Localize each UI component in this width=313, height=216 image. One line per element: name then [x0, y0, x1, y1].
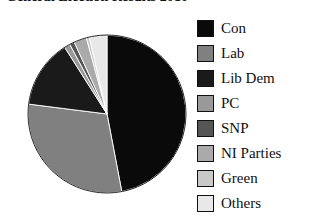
legend-item-lib-dem[interactable]: Lib Dem	[197, 66, 309, 91]
legend-item-snp[interactable]: SNP	[197, 116, 309, 141]
chart-page: General Election Results 2010 ConLabLib …	[0, 0, 313, 216]
legend-item-green[interactable]: Green	[197, 166, 309, 191]
legend-item-label: Green	[221, 170, 258, 187]
legend-item-lab[interactable]: Lab	[197, 41, 309, 66]
legend-swatch-icon	[197, 20, 214, 37]
legend-item-label: Lab	[221, 45, 244, 62]
legend-item-ni-parties[interactable]: NI Parties	[197, 141, 309, 166]
legend-item-label: Others	[221, 195, 261, 212]
page-title: General Election Results 2010	[6, 0, 236, 5]
chart-legend: ConLabLib DemPCSNPNI PartiesGreenOthers	[197, 16, 309, 216]
pie-chart-svg	[27, 34, 187, 194]
legend-swatch-icon	[197, 195, 214, 212]
pie-slice[interactable]	[107, 35, 186, 192]
legend-item-label: Lib Dem	[221, 70, 275, 87]
legend-item-pc[interactable]: PC	[197, 91, 309, 116]
legend-item-label: NI Parties	[221, 145, 281, 162]
legend-item-label: Con	[221, 20, 246, 37]
legend-swatch-icon	[197, 70, 214, 87]
legend-item-others[interactable]: Others	[197, 191, 309, 216]
legend-swatch-icon	[197, 145, 214, 162]
legend-swatch-icon	[197, 170, 214, 187]
legend-item-label: PC	[221, 95, 239, 112]
legend-item-label: SNP	[221, 120, 249, 137]
pie-slice-group	[28, 35, 186, 193]
legend-item-con[interactable]: Con	[197, 16, 309, 41]
pie-chart	[27, 34, 187, 194]
pie-slice[interactable]	[28, 104, 122, 193]
legend-swatch-icon	[197, 45, 214, 62]
legend-swatch-icon	[197, 95, 214, 112]
legend-swatch-icon	[197, 120, 214, 137]
